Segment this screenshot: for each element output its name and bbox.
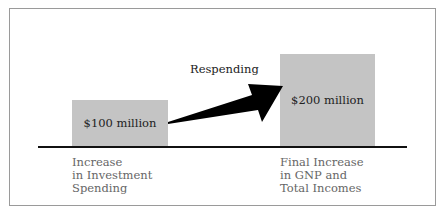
investment-caption: Increase in Investment Spending: [72, 156, 152, 195]
respending-label: Respending: [190, 62, 259, 76]
gnp-caption: Final Increase in GNP and Total Incomes: [280, 156, 364, 195]
respending-arrow-icon: [0, 0, 446, 220]
